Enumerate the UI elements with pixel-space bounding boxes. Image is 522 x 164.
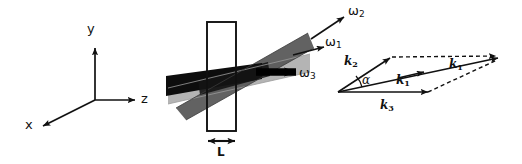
- z-axis-label: z: [141, 92, 148, 105]
- omega1-symbol: ω: [325, 34, 336, 49]
- y-axis-label: y: [87, 22, 95, 35]
- k1-upper-label: k1: [449, 58, 463, 70]
- omega2-subscript: 2: [359, 9, 365, 19]
- omega3-symbol: ω: [299, 65, 310, 80]
- omega2-label: ω2: [348, 4, 365, 17]
- figure-canvas: y z x ω2 ω1 ω3 L k2 k1 k1 k3 α: [0, 0, 522, 164]
- x-axis-arrow: [43, 100, 95, 126]
- crystal-thickness-label: L: [217, 146, 225, 158]
- k1-lower-label: k1: [396, 74, 410, 86]
- omega1-label: ω1: [325, 35, 342, 48]
- k1-lower-subscript: 1: [404, 78, 410, 88]
- k2-label: k2: [344, 55, 358, 67]
- omega3-subscript: 3: [310, 71, 316, 81]
- figure-vector-graphics: [0, 0, 522, 164]
- k1-upper-subscript: 1: [457, 62, 463, 72]
- coordinate-axes-group: [43, 48, 135, 126]
- beam-bundle-group: [166, 17, 344, 120]
- omega2-symbol: ω: [348, 3, 359, 18]
- k3-subscript: 3: [388, 103, 394, 113]
- k2-subscript: 2: [352, 59, 358, 69]
- dashed-edge-top: [392, 56, 496, 57]
- k3-label: k3: [380, 99, 394, 111]
- omega1-subscript: 1: [336, 40, 342, 50]
- x-axis-label: x: [25, 118, 33, 131]
- alpha-angle-label: α: [362, 74, 370, 86]
- omega3-label: ω3: [299, 66, 316, 79]
